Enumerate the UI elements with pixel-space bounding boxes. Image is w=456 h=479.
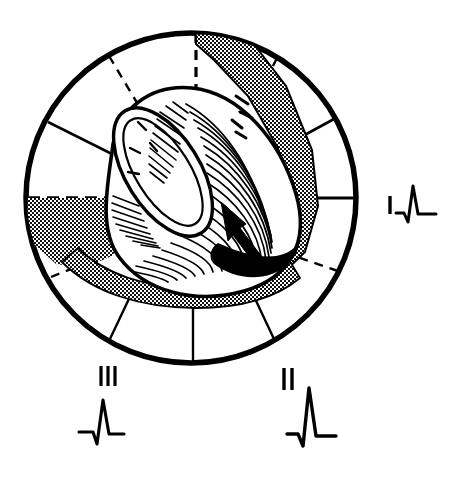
lead-III-tick-marks	[101, 366, 115, 386]
lead-I-ecg-trace	[396, 186, 436, 222]
lead-II-ecg-trace	[287, 388, 336, 446]
lead-II-group[interactable]: II	[284, 368, 336, 446]
lead-III-ecg-trace	[79, 400, 124, 444]
heart-sector-diagram: I II III	[0, 0, 456, 479]
lead-I-group[interactable]: I	[388, 186, 436, 222]
lead-III-group[interactable]: III	[79, 366, 124, 444]
lead-II-tick-marks	[284, 368, 292, 390]
figure-root: I II III	[0, 0, 456, 479]
